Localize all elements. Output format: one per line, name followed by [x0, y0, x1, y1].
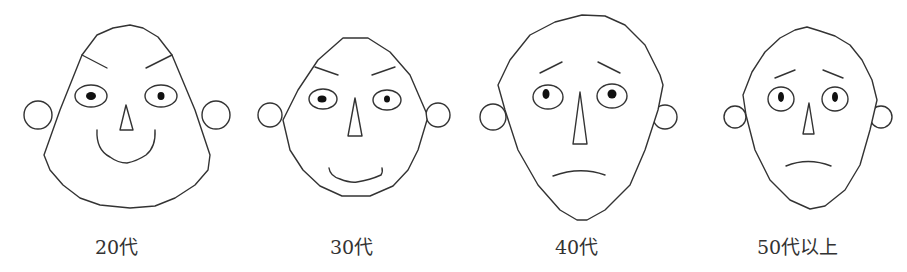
label-40s: 40代 — [555, 232, 598, 259]
left-pupil — [778, 92, 784, 102]
head-outline — [44, 25, 210, 208]
right-pupil — [158, 92, 165, 100]
left-ear — [258, 103, 282, 127]
left-pupil — [318, 96, 327, 103]
face-50s-plus — [724, 27, 892, 209]
face-40s — [480, 15, 677, 220]
label-30s: 30代 — [330, 232, 373, 259]
right-ear — [426, 103, 450, 127]
face-20s — [24, 25, 230, 208]
left-ear — [480, 104, 506, 130]
label-20s: 20代 — [95, 232, 138, 259]
right-pupil — [384, 96, 390, 103]
left-pupil — [86, 92, 96, 100]
left-pupil — [543, 89, 550, 99]
right-ear — [202, 101, 230, 129]
face-30s — [258, 38, 450, 196]
head-outline — [498, 15, 663, 220]
head-outline — [283, 38, 427, 196]
left-ear — [24, 101, 52, 129]
right-pupil — [832, 92, 838, 102]
head-outline — [743, 27, 877, 209]
label-50s-plus: 50代以上 — [757, 232, 838, 259]
left-ear — [724, 106, 746, 128]
right-pupil — [608, 90, 617, 99]
